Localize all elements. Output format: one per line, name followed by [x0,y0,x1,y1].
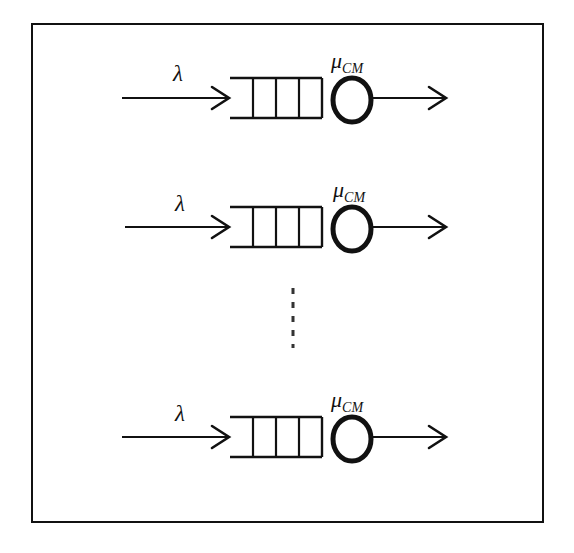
service-rate-subscript-3: CM [342,400,363,415]
queueing-diagram [0,0,574,553]
service-rate-subscript-1: CM [342,61,363,76]
service-rate-symbol-1: μ [331,48,342,73]
arrival-rate-label-3: λ [175,402,185,425]
service-rate-label-2: μCM [333,179,365,205]
service-rate-subscript-2: CM [344,190,365,205]
figure-background [0,0,574,553]
arrival-rate-label-2: λ [175,192,185,215]
arrival-rate-label-1: λ [173,62,183,85]
service-rate-symbol-2: μ [333,177,344,202]
service-rate-symbol-3: μ [331,387,342,412]
service-rate-label-1: μCM [331,50,363,76]
service-rate-label-3: μCM [331,389,363,415]
